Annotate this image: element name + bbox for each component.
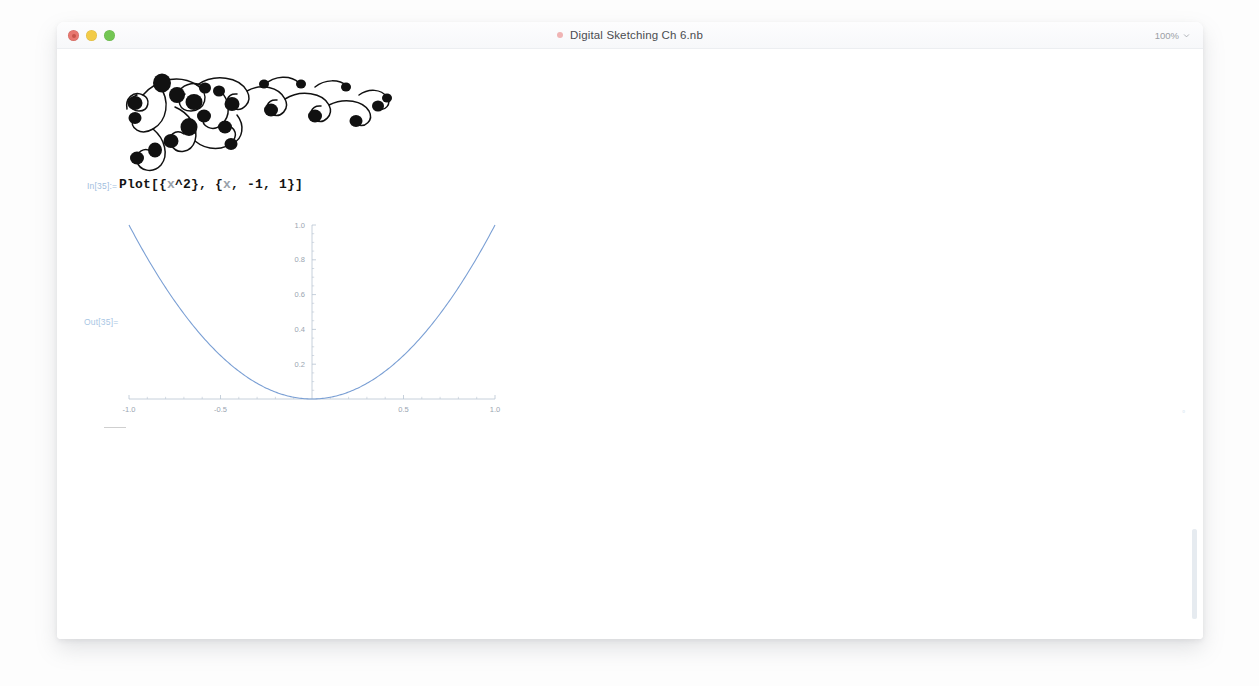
vertical-scrollbar[interactable]	[1192, 529, 1197, 619]
notebook-canvas[interactable]: In[35]:= Plot[{x^2}, {x, -1, 1}] Out[35]…	[57, 49, 1203, 639]
zoom-level-label: 100%	[1155, 30, 1179, 41]
window-title: Digital Sketching Ch 6.nb	[57, 22, 1203, 48]
ornamental-swirl-sketch-icon	[119, 55, 409, 175]
plot-output[interactable]: -1.0-0.50.51.00.20.40.60.81.0	[107, 217, 507, 417]
chevron-down-icon	[1183, 32, 1190, 39]
parabola-plot: -1.0-0.50.51.00.20.40.60.81.0	[107, 217, 507, 417]
y-tick-label: 1.0	[295, 221, 305, 230]
code-token-var1: x	[167, 177, 175, 192]
input-cell-label: In[35]:=	[87, 181, 117, 191]
scrollbar-thumb[interactable]	[1192, 529, 1197, 619]
input-cell[interactable]: In[35]:= Plot[{x^2}, {x, -1, 1}]	[57, 177, 1203, 201]
code-input[interactable]: Plot[{x^2}, {x, -1, 1}]	[119, 177, 303, 192]
notebook-window: Digital Sketching Ch 6.nb 100%	[57, 22, 1203, 639]
side-marker: ▫	[1182, 407, 1185, 416]
code-token-mid: }, {	[191, 177, 223, 192]
screenshot-root: Digital Sketching Ch 6.nb 100%	[0, 0, 1259, 686]
x-tick-label: -0.5	[214, 405, 227, 414]
code-token-open: [{	[151, 177, 167, 192]
code-token-power: ^2	[175, 177, 191, 192]
x-tick-label: 1.0	[490, 405, 500, 414]
y-tick-label: 0.4	[295, 325, 305, 334]
window-title-text: Digital Sketching Ch 6.nb	[570, 29, 703, 41]
y-tick-label: 0.6	[295, 290, 305, 299]
zoom-control[interactable]: 100%	[1155, 22, 1190, 48]
y-tick-label: 0.8	[295, 255, 305, 264]
unsaved-dot-icon	[557, 32, 563, 38]
code-token-args: , -1, 1}]	[231, 177, 303, 192]
code-token-function: Plot	[119, 177, 151, 192]
x-tick-label: 0.5	[398, 405, 408, 414]
cell-group-bar[interactable]	[104, 427, 126, 428]
y-tick-label: 0.2	[295, 360, 305, 369]
window-titlebar[interactable]: Digital Sketching Ch 6.nb 100%	[57, 22, 1203, 49]
code-token-var2: x	[223, 177, 231, 192]
x-tick-label: -1.0	[123, 405, 136, 414]
